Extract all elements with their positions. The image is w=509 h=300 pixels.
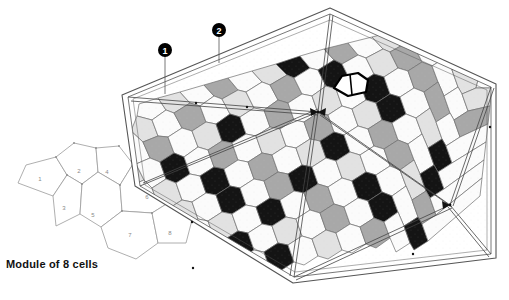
callout-1-label: 1 <box>162 46 167 56</box>
figure-canvas: 1 2 3 4 5 6 7 8 <box>0 0 509 300</box>
module-caption: Module of 8 cells <box>6 258 98 270</box>
callout-2-label: 2 <box>216 26 221 36</box>
